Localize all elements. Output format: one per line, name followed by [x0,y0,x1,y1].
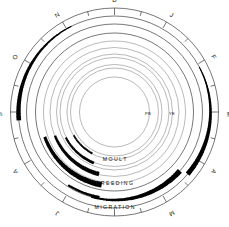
data-arc-post-breeding-pb [88,151,90,152]
month-label-10: O [11,53,20,61]
data-arc-migration-spring [207,135,208,139]
month-tick [41,182,44,185]
data-arc-migration-autumn [20,93,21,97]
data-arc-moult-main [63,165,65,167]
month-tick [14,85,18,86]
data-arc-moult-secondary [88,170,90,171]
data-arc-moult-main [53,153,55,156]
data-arc-migration-spring [209,95,210,99]
data-arc-moult-inner [87,159,89,160]
month-tick [140,12,141,16]
month-label-2: F [210,53,218,60]
data-arc-moult-main [65,167,67,169]
data-arc-moult-secondary [56,138,57,140]
data-arc-moult-main [77,176,80,177]
month-tick [14,138,18,139]
data-arc-migration-autumn [29,65,31,68]
data-arc-moult-main [89,181,92,182]
month-tick [88,12,89,16]
data-arc-breeding-tail [79,191,82,192]
data-arc-migration-autumn [34,56,36,59]
data-arc-breeding-tail [96,197,99,198]
inner-label-pb: PB [145,111,151,116]
band-label-layer: M O U L TB R E E D I N GM I G R A T I O … [94,156,134,210]
data-arc-layer [18,26,210,200]
month-label-7: J [54,210,60,218]
month-tick [211,138,215,139]
data-arc-migration-spring [202,148,204,152]
inner-label-ye: YE [169,111,175,116]
data-arc-breeding-main [139,195,142,196]
data-arc-migration-autumn [20,90,21,94]
data-arc-migration-autumn [62,29,65,31]
data-arc-migration-autumn [26,71,28,75]
data-arc-migration-autumn [22,83,23,87]
month-tick [211,85,215,86]
data-arc-breeding-main [148,192,151,193]
data-arc-migration-spring [205,142,206,146]
month-label-8: A [10,167,19,175]
data-arc-moult-inner [85,158,87,159]
data-arc-migration-spring [204,76,205,80]
data-arc-moult-main [59,161,61,163]
data-arc-migration-autumn [52,37,55,40]
data-arc-moult-secondary [60,146,61,148]
data-arc-moult-secondary [94,173,97,174]
data-arc-moult-inner [66,138,67,140]
data-arc-moult-secondary [92,172,94,173]
data-arc-moult-secondary [86,169,88,170]
data-arc-moult-secondary [84,168,86,169]
data-arc-breeding-tail [93,196,96,197]
data-arc-post-breeding-pb [77,141,78,143]
data-arc-migration-autumn [19,96,20,100]
data-arc-moult-secondary [68,156,70,158]
data-arc-breeding-tail [84,193,87,194]
data-arc-migration-autumn [32,59,34,62]
data-arc-moult-main [46,139,47,142]
data-arc-migration-autumn [44,44,47,47]
month-label-0: D [112,0,117,3]
data-arc-moult-inner [71,146,72,148]
data-arc-breeding-main [158,186,161,188]
data-arc-migration-autumn [38,51,40,54]
data-arc-moult-main [86,180,89,181]
month-tick [185,38,188,41]
band-label-breeding: B R E E D I N G [96,180,133,186]
data-arc-moult-inner [70,144,71,146]
data-arc-migration-spring [208,129,209,133]
month-label-4: A [210,168,219,176]
month-label-6: J [113,226,116,227]
data-arc-moult-inner [79,154,81,155]
month-label-1: J [169,11,175,19]
data-arc-moult-secondary [70,158,72,160]
data-arc-moult-secondary [67,155,69,157]
band-label-moult: M O U L T [103,156,127,162]
data-arc-breeding-tail [76,190,79,192]
month-tick [140,208,141,212]
data-arc-migration-autumn [65,28,68,30]
data-arc-breeding-tail [82,192,85,193]
data-arc-migration-autumn [54,35,57,37]
data-arc-migration-spring [207,86,208,90]
data-arc-post-breeding-pb [79,143,80,144]
month-label-9: S [0,112,3,116]
data-arc-migration-spring [208,89,209,93]
data-arc-migration-spring [205,79,206,83]
month-tick [199,60,205,64]
month-tick [63,22,67,28]
data-arc-migration-spring [190,168,192,171]
month-tick [41,38,44,41]
month-tick [163,196,167,202]
data-arc-migration-spring [196,160,198,163]
data-arc-post-breeding-pb [82,146,83,147]
data-arc-migration-spring [188,171,190,174]
data-arc-migration-autumn [57,33,60,35]
data-arc-migration-spring [202,73,204,77]
data-arc-moult-inner [76,151,78,153]
data-arc-migration-autumn [40,49,43,52]
data-arc-post-breeding-pb [87,150,89,151]
data-arc-migration-autumn [68,26,71,28]
data-arc-moult-main [49,146,50,149]
data-arc-migration-spring [208,132,209,136]
data-arc-post-breeding-pb [89,152,91,153]
